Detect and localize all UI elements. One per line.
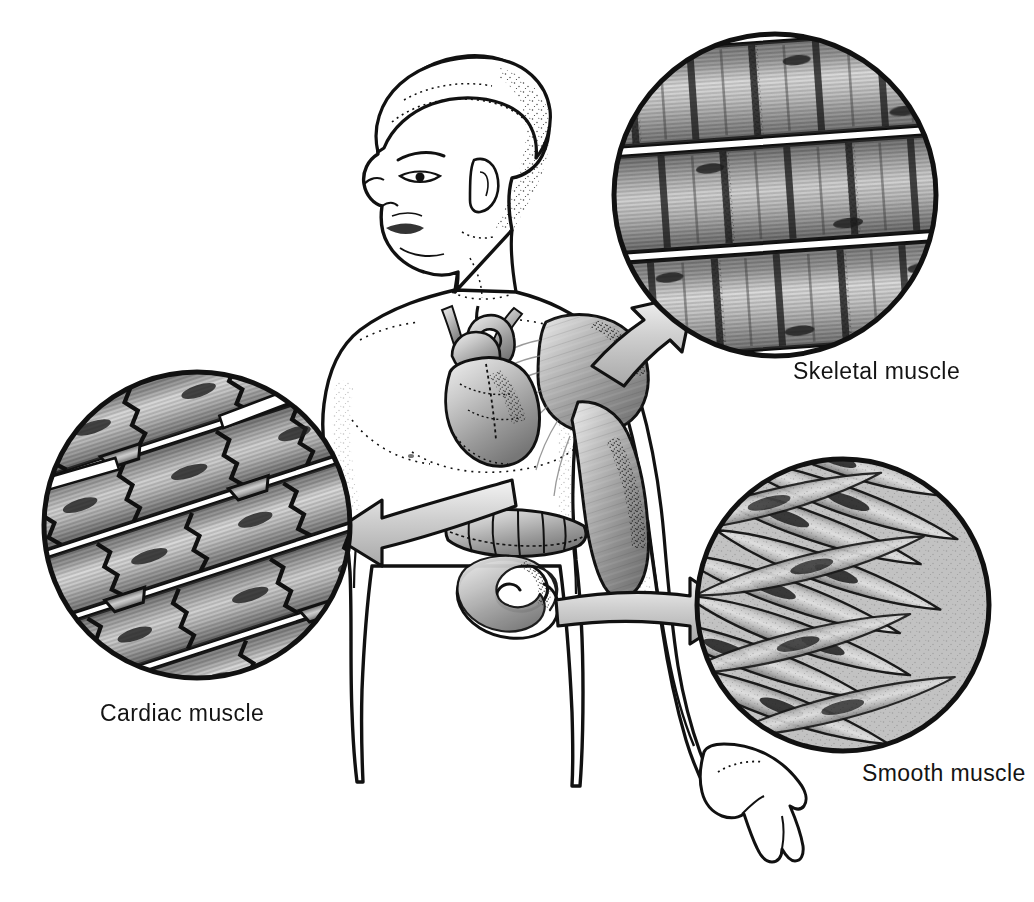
pupil [416,173,425,182]
head [364,56,551,298]
label-cardiac-muscle: Cardiac muscle [100,700,264,727]
muscle-types-figure: Skeletal muscle Cardiac muscle Smooth mu… [0,0,1034,902]
smooth-texture-stipple [690,452,996,758]
label-smooth-muscle: Smooth muscle [862,760,1026,787]
nipple-left [408,454,414,458]
label-skeletal-muscle: Skeletal muscle [793,358,960,385]
